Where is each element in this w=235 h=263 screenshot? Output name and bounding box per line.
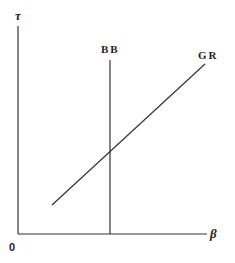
x-axis-label: β	[209, 226, 217, 241]
gr-label: GR	[198, 49, 219, 61]
diagram-canvas: τ β 0 BB GR	[0, 0, 235, 263]
bb-label: BB	[101, 43, 120, 55]
y-axis-label: τ	[15, 8, 22, 23]
origin-label: 0	[9, 241, 15, 253]
gr-curve	[52, 64, 205, 205]
